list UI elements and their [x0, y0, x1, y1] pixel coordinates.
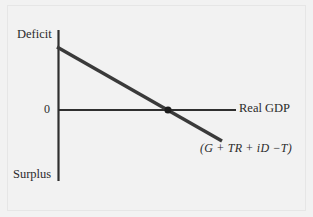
x-axis-title-real-gdp: Real GDP	[239, 102, 290, 115]
origin-tick-label: 0	[44, 103, 50, 116]
balanced-budget-point-marker	[164, 106, 171, 113]
budget-balance-chart: Deficit Surplus 0 Real GDP (G + TR + iD …	[0, 0, 313, 217]
curve-annotation-equation: (G + TR + iD −T)	[200, 142, 292, 155]
surplus-axis-label: Surplus	[13, 168, 51, 181]
deficit-axis-label: Deficit	[17, 28, 52, 41]
budget-balance-curve	[57, 47, 222, 141]
